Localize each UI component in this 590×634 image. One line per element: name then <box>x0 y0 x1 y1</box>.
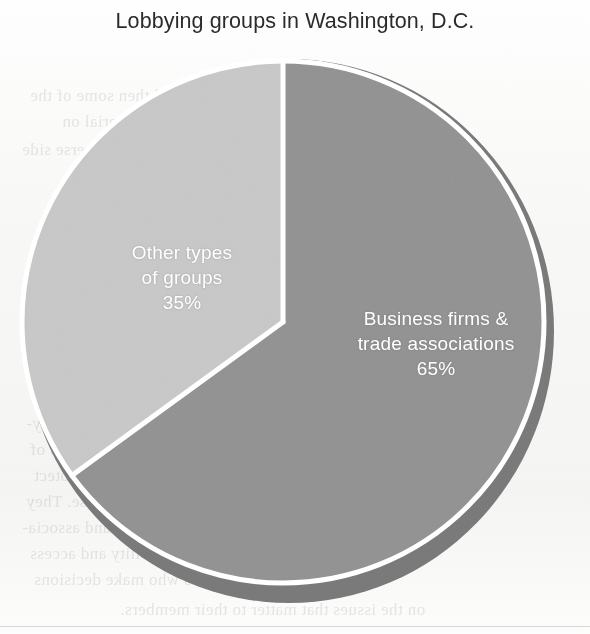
pie-chart <box>0 0 590 634</box>
pie-chart-svg <box>0 0 590 634</box>
pie-chart-figure: and then some of the other material on t… <box>0 0 590 634</box>
page-rule <box>0 626 590 627</box>
